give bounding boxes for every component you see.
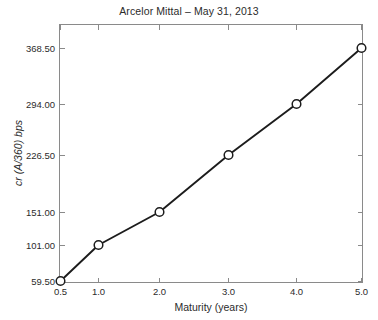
y-tick-marks <box>60 49 65 282</box>
y-tick-label-1: 101.00 <box>26 240 55 251</box>
y-tick-label-0: 59.50 <box>31 276 55 287</box>
data-point-marker <box>292 100 301 109</box>
plot-area: 59.50 101.00 151.00 226.50 294.00 368.50… <box>0 0 378 320</box>
x-tick-label-5: 5.0 <box>355 286 368 297</box>
data-point-marker <box>56 277 65 286</box>
data-point-marker <box>224 151 233 160</box>
y-tick-label-5: 368.50 <box>26 43 55 54</box>
x-tick-marks <box>61 278 362 283</box>
plot-frame <box>60 25 363 283</box>
y-tick-label-2: 151.00 <box>26 207 55 218</box>
data-markers <box>56 44 366 286</box>
x-axis-title: Maturity (years) <box>175 301 248 313</box>
data-series-line <box>61 48 362 281</box>
y-tick-label-3: 226.50 <box>26 150 55 161</box>
x-tick-label-1: 1.0 <box>92 286 105 297</box>
y-axis-title: cr (A/360) bps <box>12 119 24 186</box>
chart-screenshot: Arcelor Mittal – May 31, 2013 <box>0 0 378 320</box>
x-tick-label-0: 0.5 <box>54 286 67 297</box>
data-point-marker <box>357 44 366 53</box>
y-tick-label-4: 294.00 <box>26 99 55 110</box>
data-point-marker <box>155 208 164 217</box>
x-tick-label-3: 3.0 <box>222 286 235 297</box>
y-tick-marks-right <box>358 49 363 282</box>
data-point-marker <box>94 241 103 250</box>
x-tick-label-2: 2.0 <box>153 286 166 297</box>
x-tick-marks-top <box>61 25 362 30</box>
x-tick-label-4: 4.0 <box>290 286 303 297</box>
